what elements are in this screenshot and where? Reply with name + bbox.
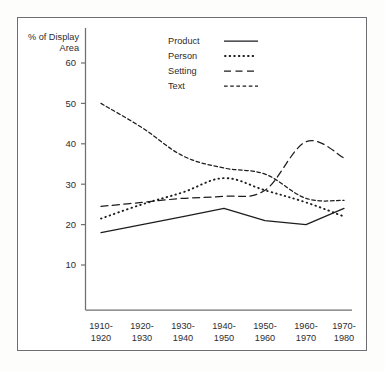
x-tick-label-3-line1: 1940- xyxy=(212,321,236,331)
line-chart-canvas: % of Display Area 10 20 30 40 50 60 1910… xyxy=(0,0,385,372)
x-tick-label-0-line2: 1920 xyxy=(91,333,111,343)
x-tick-label-5-line2: 1970 xyxy=(296,333,316,343)
x-tick-label-2-line2: 1940 xyxy=(173,333,193,343)
y-tick-label-20: 20 xyxy=(65,219,76,230)
x-tick-label-1-line2: 1930 xyxy=(132,333,152,343)
x-tick-label-1-line1: 1920- xyxy=(130,321,154,331)
x-tick-label-6-line1: 1970- xyxy=(332,321,356,331)
y-tick-label-40: 40 xyxy=(65,138,76,149)
x-tick-label-6-line2: 1980 xyxy=(334,333,354,343)
x-axis-tick-labels: 1910- 1920 1920- 1930 1930- 1940 1940- 1… xyxy=(89,321,356,343)
x-tick-label-0-line1: 1910- xyxy=(89,321,113,331)
legend-label-setting: Setting xyxy=(168,66,197,76)
chart-figure: % of Display Area 10 20 30 40 50 60 1910… xyxy=(0,0,385,372)
x-tick-label-4-line1: 1950- xyxy=(253,321,277,331)
y-tick-label-30: 30 xyxy=(65,179,76,190)
y-tick-label-50: 50 xyxy=(65,98,76,109)
x-tick-label-4-line2: 1960 xyxy=(255,333,275,343)
y-axis-ticks xyxy=(81,63,86,265)
series-line-setting xyxy=(101,141,344,207)
x-tick-label-3-line2: 1950 xyxy=(214,333,234,343)
legend-label-product: Product xyxy=(168,36,200,46)
series-line-text xyxy=(101,103,344,201)
x-tick-label-5-line1: 1960- xyxy=(294,321,318,331)
y-tick-label-60: 60 xyxy=(65,57,76,68)
x-tick-label-2-line1: 1930- xyxy=(171,321,195,331)
y-axis-title-line2: Area xyxy=(60,43,80,53)
legend-label-text: Text xyxy=(168,81,185,91)
y-axis-title-line1: % of Display xyxy=(28,32,79,42)
chart-legend: Product Person Setting Text xyxy=(168,36,258,91)
legend-label-person: Person xyxy=(168,51,197,61)
series-line-product xyxy=(101,208,344,232)
y-tick-label-10: 10 xyxy=(65,259,76,270)
